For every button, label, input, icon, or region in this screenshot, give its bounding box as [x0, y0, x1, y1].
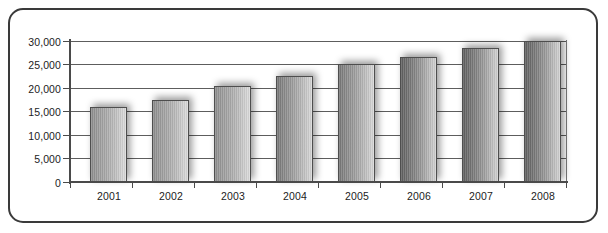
- bar-2008[interactable]: [524, 41, 561, 182]
- x-axis-tick-5: [380, 183, 381, 188]
- y-axis-label-25000: 25,000: [9, 59, 61, 71]
- y-axis-label-0: 0: [9, 177, 61, 189]
- x-axis-label-2006: 2006: [388, 190, 450, 202]
- x-axis-label-2002: 2002: [140, 190, 202, 202]
- x-axis-tick-0: [70, 183, 71, 188]
- y-axis-label-20000: 20,000: [9, 83, 61, 95]
- x-axis-tick-2: [194, 183, 195, 188]
- x-axis-label-2007: 2007: [450, 190, 512, 202]
- bar-2006[interactable]: [400, 57, 437, 182]
- y-axis-line: [69, 39, 71, 184]
- x-axis-label-2001: 2001: [78, 190, 140, 202]
- y-axis-label-10000: 10,000: [9, 130, 61, 142]
- chart-figure: 30,000 25,000 20,000 15,000 10,000 5,000…: [0, 0, 608, 233]
- y-axis-label-30000: 30,000: [9, 36, 61, 48]
- x-axis-tick-4: [318, 183, 319, 188]
- y-axis-labels: 30,000 25,000 20,000 15,000 10,000 5,000…: [5, 0, 61, 233]
- bar-2001[interactable]: [90, 107, 127, 182]
- bar-2007[interactable]: [462, 48, 499, 182]
- x-axis-tick-6: [442, 183, 443, 188]
- bar-2003[interactable]: [214, 86, 251, 182]
- x-axis-label-2008: 2008: [512, 190, 574, 202]
- bar-2002[interactable]: [152, 100, 189, 182]
- plot-right-boundary: [566, 40, 567, 182]
- y-axis-label-5000: 5,000: [9, 153, 61, 165]
- x-axis-label-2005: 2005: [326, 190, 388, 202]
- x-axis-tick-3: [256, 183, 257, 188]
- x-axis-tick-7: [504, 183, 505, 188]
- x-axis-label-2003: 2003: [202, 190, 264, 202]
- bar-2005[interactable]: [338, 64, 375, 182]
- y-axis-label-15000: 15,000: [9, 106, 61, 118]
- x-axis-label-2004: 2004: [264, 190, 326, 202]
- gridline-30000: [70, 41, 567, 42]
- x-axis-tick-1: [132, 183, 133, 188]
- bar-2004[interactable]: [276, 76, 313, 182]
- x-axis-tick-8: [566, 183, 567, 188]
